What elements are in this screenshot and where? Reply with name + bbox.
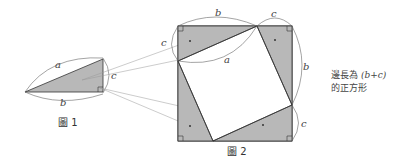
brace-top-b bbox=[178, 17, 257, 26]
figure2-label-left-c: c bbox=[161, 37, 167, 48]
figure2-label-right-c: c bbox=[301, 118, 307, 129]
figure2-label-right-b: b bbox=[303, 61, 309, 72]
figure1-label-c: c bbox=[111, 70, 117, 81]
triangle-center-dot bbox=[274, 39, 276, 41]
brace-left-c bbox=[172, 26, 179, 61]
figure2-caption: 圖 2 bbox=[227, 146, 247, 157]
figure2-label-inner-a: a bbox=[224, 54, 230, 65]
figure-2: b c c a b c 圖 2 bbox=[161, 7, 309, 157]
pointer-line bbox=[100, 88, 190, 126]
figure1-triangle bbox=[25, 59, 103, 92]
figure1-caption: 圖 1 bbox=[58, 117, 78, 128]
annotation: 邊長為 (b+c) 的正方形 bbox=[331, 69, 387, 93]
annotation-line-2: 的正方形 bbox=[331, 82, 367, 93]
triangle-center-dot bbox=[189, 40, 191, 42]
brace-right-b bbox=[292, 26, 302, 105]
triangle-center-dot bbox=[189, 125, 191, 127]
figure1-label-a: a bbox=[55, 59, 61, 70]
figure2-label-top-b: b bbox=[215, 7, 221, 18]
annotation-line-1: 邊長為 (b+c) bbox=[331, 69, 387, 80]
annotation-prefix: 邊長為 bbox=[331, 69, 361, 80]
figure1-label-b: b bbox=[60, 97, 66, 108]
figure-1: a b c 圖 1 bbox=[25, 58, 117, 128]
annotation-expression: (b+c) bbox=[361, 70, 387, 80]
pointer-line bbox=[82, 41, 190, 80]
diagram: a b c 圖 1 b c c a b bbox=[0, 0, 420, 166]
triangle-center-dot bbox=[262, 124, 264, 126]
brace-top-c bbox=[257, 18, 292, 26]
figure2-label-top-c: c bbox=[271, 8, 277, 19]
brace-right-c bbox=[292, 105, 299, 141]
